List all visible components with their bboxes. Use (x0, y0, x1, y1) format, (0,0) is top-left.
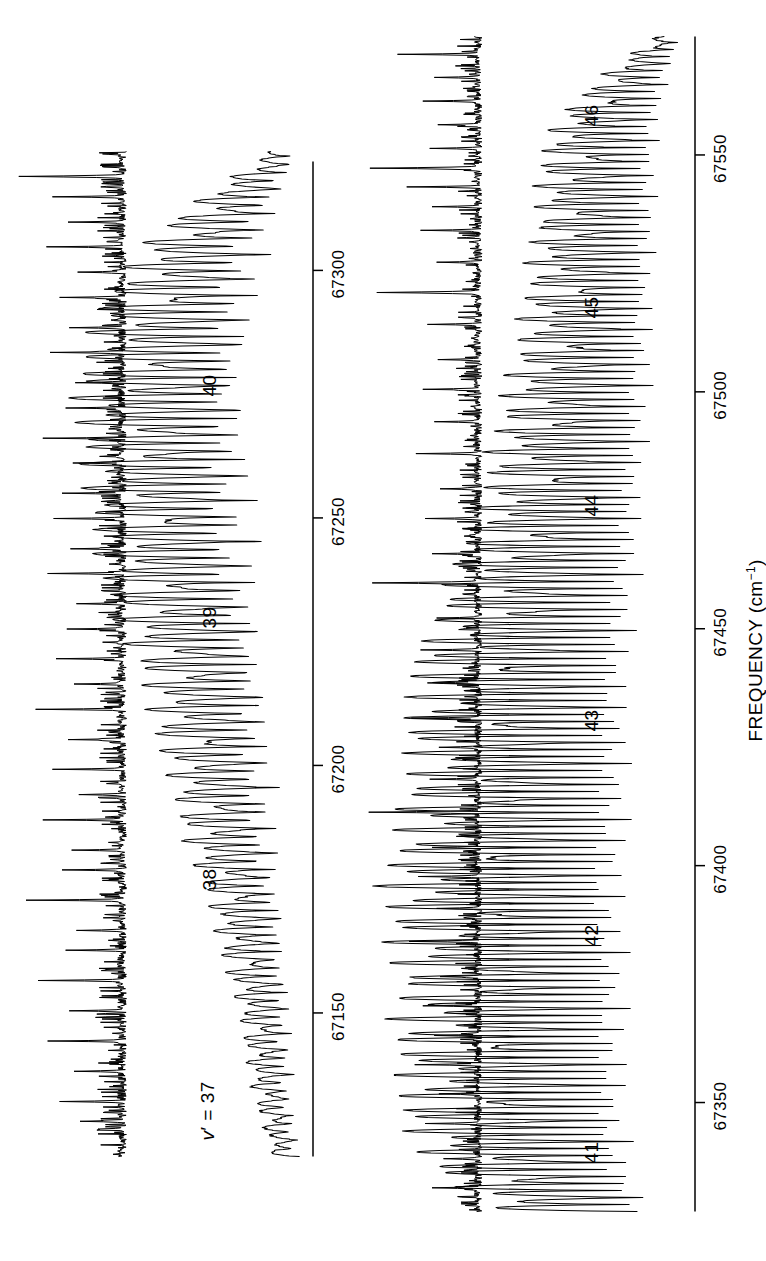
upper-reference-marker-trace (10, 146, 130, 1156)
axis-tick-label: 67350 (712, 1081, 729, 1130)
axis-tick-label: 67500 (712, 371, 729, 420)
lower-panel: 6735067400674506750067550 41 42 43 44 45… (370, 31, 740, 1211)
vib-label-44: 44 (582, 494, 601, 516)
vib-label-40: 40 (200, 374, 219, 396)
lower-lif-excitation-trace (510, 31, 690, 1211)
upper-lif-excitation-trace (160, 146, 310, 1156)
axis-tick-label: 67300 (330, 249, 347, 298)
axis-tick-label: 67200 (330, 744, 347, 793)
upper-panel: 67150672006725067300 v′ = 37 38 39 40 (10, 146, 350, 1156)
vib-label-38: 38 (200, 868, 219, 890)
vib-label-46: 46 (582, 104, 601, 126)
vib-label-42: 42 (582, 924, 601, 946)
axis-tick-label: 67250 (330, 497, 347, 546)
axis-tick-label: 67400 (712, 844, 729, 893)
vib-label-39: 39 (200, 606, 219, 628)
axis-tick-label: 67150 (330, 992, 347, 1041)
vib-label-41: 41 (582, 1141, 601, 1163)
x-axis-title: FREQUENCY (cm−1) (745, 559, 765, 741)
axis-tick-label: 67550 (712, 134, 729, 183)
vib-label-43: 43 (582, 709, 601, 731)
axis-units-exponent: −1 (744, 565, 758, 579)
vib-label-45: 45 (582, 296, 601, 318)
axis-tick-label: 67450 (712, 607, 729, 656)
vib-label-37: v′ = 37 (198, 1081, 217, 1140)
